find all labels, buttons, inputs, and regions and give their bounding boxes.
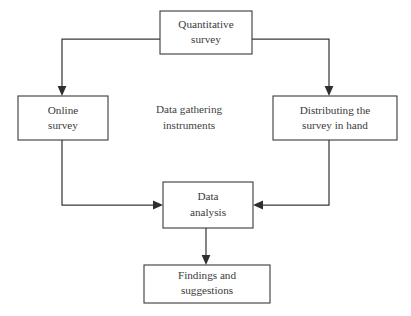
node-data-analysis: Data analysis — [163, 182, 253, 228]
connector-online-to-analysis — [62, 140, 156, 205]
node-findings-suggestions-label-line2: suggestions — [181, 284, 233, 296]
connector-distributing-to-analysis — [260, 140, 329, 205]
node-findings-suggestions: Findings and suggestions — [144, 265, 270, 303]
connector-quantitative-to-distributing — [252, 39, 329, 89]
center-label-line1: Data gathering — [156, 103, 223, 115]
connector-quantitative-to-online — [62, 39, 160, 89]
node-distributing-survey-label-line1: Distributing the — [300, 104, 371, 116]
center-label-line2: instruments — [163, 119, 215, 131]
node-quantitative-survey-label-line1: Quantitative — [178, 18, 233, 30]
node-quantitative-survey-label-line2: survey — [191, 33, 221, 45]
arrowhead-analysis-to-findings — [202, 255, 211, 265]
node-online-survey: Online survey — [18, 96, 108, 140]
flowchart-diagram: Quantitative survey Online survey Distri… — [0, 0, 411, 316]
node-online-survey-label-line1: Online — [48, 104, 78, 116]
flowchart-canvas: Quantitative survey Online survey Distri… — [0, 0, 411, 316]
center-label-data-gathering-instruments: Data gathering instruments — [156, 103, 223, 131]
arrowhead-quantitative-to-distributing — [325, 86, 334, 96]
node-data-analysis-label-line1: Data — [197, 190, 218, 202]
arrowhead-quantitative-to-online — [58, 86, 67, 96]
node-distributing-survey: Distributing the survey in hand — [273, 96, 397, 140]
node-online-survey-label-line2: survey — [48, 119, 78, 131]
node-quantitative-survey: Quantitative survey — [160, 11, 252, 54]
node-distributing-survey-label-line2: survey in hand — [302, 119, 368, 131]
node-data-analysis-label-line2: analysis — [190, 206, 226, 218]
arrowhead-distributing-to-analysis — [253, 201, 263, 210]
arrowhead-online-to-analysis — [153, 201, 163, 210]
node-findings-suggestions-label-line1: Findings and — [178, 269, 237, 281]
